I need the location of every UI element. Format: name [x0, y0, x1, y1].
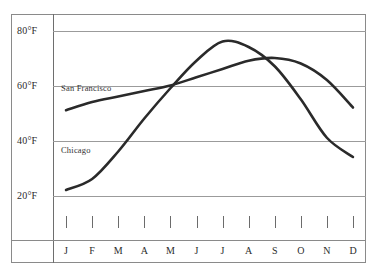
y-tick-label-20: 20°F	[17, 190, 37, 201]
x-axis-label-august: A	[245, 245, 252, 256]
y-tick-label-60: 60°F	[17, 80, 37, 91]
x-axis-month-labels: JFMAMJJASOND	[53, 241, 366, 263]
x-tick-november	[327, 216, 328, 228]
y-tick-label-40: 40°F	[17, 135, 37, 146]
x-axis-label-february: F	[89, 245, 95, 256]
temperature-line-chart: 20°F40°F60°F80°F San Francisco Chicago J…	[0, 0, 379, 277]
x-axis-label-april: A	[141, 245, 148, 256]
x-tick-october	[301, 216, 302, 228]
x-axis-label-september: S	[272, 245, 278, 256]
x-tick-september	[275, 216, 276, 228]
curve-chicago	[66, 41, 353, 190]
x-axis-label-may: M	[166, 245, 175, 256]
x-tick-may	[170, 216, 171, 228]
x-axis-label-march: M	[114, 245, 123, 256]
x-tick-march	[118, 216, 119, 228]
x-axis-label-july: J	[221, 245, 225, 256]
x-tick-july	[223, 216, 224, 228]
x-axis-label-november: N	[323, 245, 330, 256]
x-axis-label-october: O	[297, 245, 304, 256]
x-tick-january	[66, 216, 67, 228]
x-axis-label-december: D	[349, 245, 356, 256]
x-tick-february	[92, 216, 93, 228]
y-tick-label-80: 80°F	[17, 25, 37, 36]
x-tick-december	[353, 216, 354, 228]
x-axis-label-january: J	[64, 245, 68, 256]
x-tick-august	[249, 216, 250, 228]
series-curves	[53, 14, 366, 212]
x-axis-label-june: J	[195, 245, 199, 256]
x-tick-april	[144, 216, 145, 228]
curve-san-francisco	[66, 58, 353, 110]
x-tick-june	[197, 216, 198, 228]
x-axis-ticks	[53, 213, 366, 240]
